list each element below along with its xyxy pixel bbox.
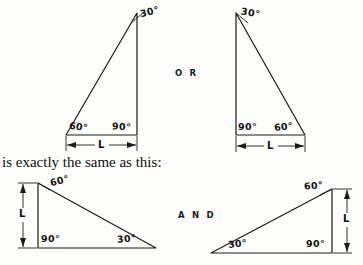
connector-and: A N D: [178, 211, 216, 220]
geometry-drawing: [0, 0, 363, 265]
angle-label-t4-apex: 60°: [304, 180, 324, 191]
dimension-label-t1: L: [98, 140, 104, 150]
dimension-label-t3: L: [19, 209, 25, 219]
triangle-top-right-shape: [236, 13, 305, 135]
connector-or: O R: [175, 69, 198, 78]
figure-caption: is exactly the same as this:: [2, 155, 162, 170]
triangle-top-left-shape: [66, 13, 137, 135]
dimension-label-t4: L: [343, 214, 349, 224]
angle-label-t2-left: 90°: [238, 122, 257, 132]
angle-label-t4-right: 90°: [306, 239, 325, 249]
angle-label-t3-left: 90°: [41, 234, 60, 244]
dimension-label-t2: L: [267, 141, 273, 151]
angle-label-t1-right: 90°: [112, 121, 132, 132]
angle-label-t4-left: 30°: [228, 238, 248, 249]
angle-label-t2-right: 60°: [274, 121, 294, 132]
leader-line-bottom-left: [38, 183, 50, 190]
angle-label-t1-left: 60°: [68, 121, 88, 133]
angle-label-t3-right: 30°: [117, 233, 137, 244]
figure-page: 30° 60° 90° L 30° 90° 60° L 60° 90° 30° …: [0, 0, 363, 265]
